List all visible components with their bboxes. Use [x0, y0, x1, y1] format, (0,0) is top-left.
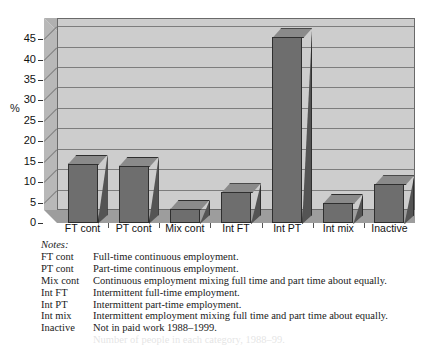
note-row: PT contPart-time continuous employment.	[41, 263, 421, 275]
y-axis-tick-label: 10	[8, 176, 36, 187]
note-text: Full-time continuous employment.	[93, 251, 421, 263]
y-axis-tick-label: 35	[8, 74, 36, 85]
note-row: Mix contContinuous employment mixing ful…	[41, 275, 421, 287]
gridline	[57, 47, 415, 48]
bar-front-face	[68, 164, 98, 223]
note-row: FT contFull-time continuous employment.	[41, 251, 421, 263]
y-axis-tick-label: 15	[8, 156, 36, 167]
note-row: Int PTIntermittent part-time employment.	[41, 299, 421, 311]
x-axis-tick-label: Mix cont	[159, 222, 210, 236]
note-text: Intermittent employment mixing full time…	[93, 310, 421, 322]
y-axis-tickmark	[38, 121, 43, 122]
y-axis-tickmark	[38, 182, 43, 183]
gridline	[57, 108, 415, 109]
y-axis-tickmark	[38, 80, 43, 81]
x-axis-tick-label: Int mix	[313, 222, 364, 236]
y-axis-tick-label: 40	[8, 54, 36, 65]
note-key: Inactive	[41, 322, 93, 334]
note-text: Part-time continuous employment.	[93, 263, 421, 275]
y-axis-tick-label: 0	[8, 217, 36, 228]
notes-title: Notes:	[41, 239, 421, 251]
bar-side-face	[302, 28, 312, 224]
bar-front-face	[170, 209, 200, 223]
y-axis-tick-label: 25	[8, 115, 36, 126]
note-text: Intermittent full-time employment.	[93, 287, 421, 299]
x-axis-tick-label: PT cont	[108, 222, 159, 236]
notes-truncated-line: Number of people in each category, 1988–…	[41, 334, 421, 346]
y-axis-tickmark	[38, 203, 43, 204]
note-key: Int FT	[41, 287, 93, 299]
bar-front-face	[323, 203, 353, 223]
gridline	[57, 26, 415, 27]
y-axis-tickmark	[38, 100, 43, 101]
note-text: Intermittent part-time employment.	[93, 299, 421, 311]
y-axis-label: %	[10, 102, 20, 114]
notes-section: Notes: FT contFull-time continuous emplo…	[41, 239, 421, 346]
note-text: Continuous employment mixing full time a…	[93, 275, 421, 287]
x-axis-tick-label: Int FT	[210, 222, 261, 236]
bar-side-face	[149, 157, 159, 224]
y-axis-tickmark	[38, 162, 43, 163]
note-row: Int mixIntermittent employment mixing fu…	[41, 310, 421, 322]
bar	[170, 200, 209, 223]
bar	[119, 157, 158, 223]
x-axis-tick-label: Inactive	[364, 222, 415, 236]
gridline	[57, 169, 415, 170]
y-axis-tick-label: 20	[8, 135, 36, 146]
note-row: InactiveNot in paid work 1988–1999.	[41, 322, 421, 334]
y-axis-tickmark	[38, 223, 43, 224]
bar-front-face	[119, 166, 149, 223]
y-axis-tick-label: 45	[8, 33, 36, 44]
bar	[374, 175, 413, 223]
bar	[272, 28, 311, 223]
y-axis-tick-label: 5	[8, 197, 36, 208]
x-axis-tick-label: Int PT	[262, 222, 313, 236]
gridline	[57, 149, 415, 150]
y-axis-tickmark	[38, 141, 43, 142]
x-axis-tick-label: FT cont	[57, 222, 108, 236]
gridline	[57, 67, 415, 68]
note-key: PT cont	[41, 263, 93, 275]
bar-side-face	[98, 155, 108, 224]
notes-rows: FT contFull-time continuous employment.P…	[41, 251, 421, 334]
note-text: Not in paid work 1988–1999.	[93, 322, 421, 334]
note-key: FT cont	[41, 251, 93, 263]
bar	[221, 183, 260, 223]
bar-front-face	[221, 192, 251, 223]
y-axis-tickmark	[38, 60, 43, 61]
x-axis-labels: FT contPT contMix contInt FTInt PTInt mi…	[57, 222, 415, 236]
note-key: Mix cont	[41, 275, 93, 287]
note-key: Int mix	[41, 310, 93, 322]
y-axis-tickmark	[38, 39, 43, 40]
bar-front-face	[272, 37, 302, 223]
gridline	[57, 87, 415, 88]
note-key: Int PT	[41, 299, 93, 311]
note-row: Int FTIntermittent full-time employment.	[41, 287, 421, 299]
bar	[323, 194, 362, 223]
gridline	[57, 128, 415, 129]
bar-front-face	[374, 184, 404, 223]
bar-chart: 051015202530354045 % FT contPT contMix c…	[0, 0, 424, 238]
bar	[68, 155, 107, 223]
